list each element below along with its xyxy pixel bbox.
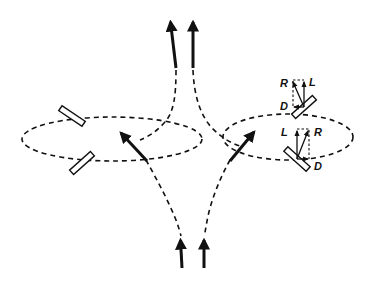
left-upper-wing-section	[59, 106, 86, 127]
bottom-left-flow-arrow	[181, 240, 183, 268]
flow-diagram: R L D L R D	[0, 0, 374, 285]
upper-D-label: D	[280, 100, 288, 112]
top-left-flow-arrow	[171, 22, 177, 68]
left-upper-streamline	[140, 70, 176, 140]
left-wing-loop	[22, 117, 202, 161]
right-lower-streamline	[205, 160, 231, 236]
left-loop-direction-arrow	[121, 133, 147, 161]
lower-resultant-vector	[297, 131, 308, 159]
upper-L-label: L	[309, 76, 316, 88]
lower-L-label: L	[281, 126, 288, 138]
upper-resultant-vector	[293, 82, 304, 107]
lower-D-label: D	[314, 160, 322, 172]
upper-R-label: R	[280, 77, 288, 89]
left-lower-streamline	[146, 160, 181, 236]
lower-force-diagram	[297, 129, 309, 159]
lower-R-label: R	[314, 126, 322, 138]
upper-force-diagram	[293, 80, 304, 107]
left-lower-wing-section	[70, 151, 95, 174]
right-loop-direction-arrow	[230, 132, 254, 161]
